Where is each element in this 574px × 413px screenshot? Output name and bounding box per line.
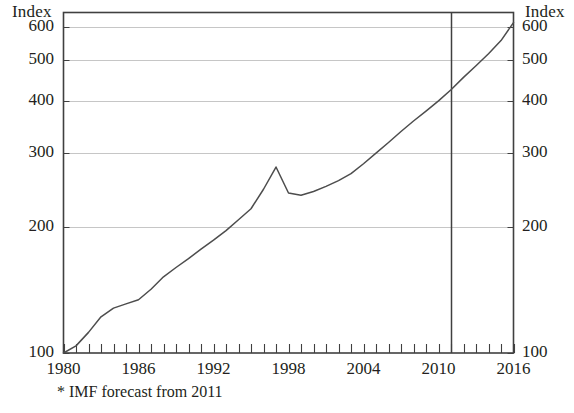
y-axis-tick-label-right: 600 <box>522 16 566 36</box>
x-axis-tick-label: 2016 <box>487 359 541 379</box>
gridlines <box>64 28 514 228</box>
chart-footnote: * IMF forecast from 2011 <box>57 383 223 401</box>
x-axis-minor-ticks <box>65 344 515 353</box>
y-axis-tick-label: 500 <box>10 49 54 69</box>
x-axis-tick-label: 2010 <box>412 359 466 379</box>
y-axis-tick-label: 200 <box>10 216 54 236</box>
x-axis-tick-label: 1980 <box>37 359 91 379</box>
y-axis-tick-label-right: 300 <box>522 142 566 162</box>
x-axis-tick-label: 1998 <box>262 359 316 379</box>
x-axis-tick-label: 2004 <box>337 359 391 379</box>
x-axis-tick-label: 1992 <box>187 359 241 379</box>
x-axis-tick-label: 1986 <box>112 359 166 379</box>
y-axis-tick-label-right: 400 <box>522 90 566 110</box>
chart-figure: Index Index 600500400300200100 600500400… <box>0 0 574 413</box>
y-axis-tick-label: 300 <box>10 142 54 162</box>
y-axis-tick-label: 400 <box>10 90 54 110</box>
data-series-line <box>64 23 514 353</box>
line-chart-plot <box>0 0 574 413</box>
y-axis-tick-label-right: 200 <box>522 216 566 236</box>
y-axis-tick-label: 600 <box>10 16 54 36</box>
y-axis-tick-label-right: 500 <box>522 49 566 69</box>
y-axis-tick-marks <box>64 28 514 354</box>
